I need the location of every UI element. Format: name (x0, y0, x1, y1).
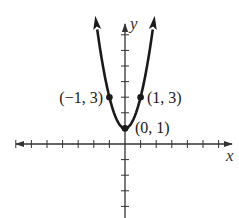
curve-arrow-right-icon (149, 16, 157, 30)
parabola-graph: (−1, 3) (1, 3) (0, 1) y x (0, 0, 239, 218)
point-vertex (122, 125, 129, 132)
curve-arrow-left-icon (93, 16, 101, 30)
point-right (137, 94, 144, 101)
point-left (106, 94, 113, 101)
point-vertex-label: (0, 1) (135, 119, 170, 137)
point-right-label: (1, 3) (147, 89, 182, 107)
x-axis-label: x (225, 146, 234, 165)
y-axis-label: y (128, 14, 138, 33)
point-left-label: (−1, 3) (59, 89, 103, 107)
